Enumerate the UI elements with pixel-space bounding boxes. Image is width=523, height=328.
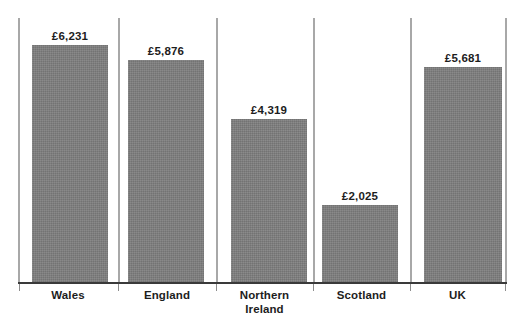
category-label-wales-line1: Wales — [18, 288, 118, 302]
separator-line-3 — [313, 18, 315, 283]
bar-value-england: £5,876 — [126, 45, 206, 57]
bar-value-wales: £6,231 — [30, 30, 110, 42]
category-label-northern-ireland-line1: Northern — [216, 288, 313, 302]
bar-chart: £6,231 £5,876 £4,319 £2,025 £5,681 Wales… — [0, 0, 523, 328]
category-label-scotland-line1: Scotland — [313, 288, 410, 302]
separator-line-right — [505, 18, 507, 283]
category-label-wales: Wales — [18, 288, 118, 302]
bar-england[interactable] — [128, 60, 204, 283]
category-label-northern-ireland-line2: Ireland — [216, 302, 313, 316]
category-label-uk-line1: UK — [410, 288, 505, 302]
category-label-northern-ireland: Northern Ireland — [216, 288, 313, 316]
bar-uk[interactable] — [424, 67, 502, 283]
bar-value-northern-ireland: £4,319 — [229, 104, 309, 116]
x-axis-line — [18, 282, 507, 284]
separator-line-4 — [410, 18, 412, 283]
category-label-uk: UK — [410, 288, 505, 302]
x-axis-tick-5 — [505, 284, 506, 291]
bar-northern-ireland[interactable] — [231, 119, 307, 283]
category-label-england: England — [118, 288, 216, 302]
bar-value-scotland: £2,025 — [320, 190, 400, 202]
category-label-england-line1: England — [118, 288, 216, 302]
separator-line-left — [18, 18, 20, 283]
separator-line-1 — [118, 18, 120, 283]
plot-area: £6,231 £5,876 £4,319 £2,025 £5,681 Wales… — [0, 0, 523, 328]
bar-value-uk: £5,681 — [423, 52, 503, 64]
separator-line-2 — [216, 18, 218, 283]
category-label-scotland: Scotland — [313, 288, 410, 302]
bar-wales[interactable] — [32, 45, 108, 283]
bar-scotland[interactable] — [322, 205, 398, 283]
